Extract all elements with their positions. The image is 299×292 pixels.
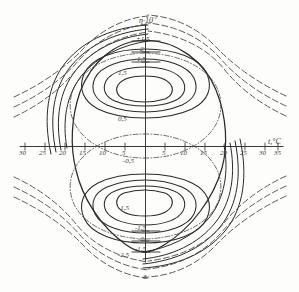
contour-label-upper-inner: 1,5 xyxy=(118,70,127,77)
branch-lower-right-solid xyxy=(143,139,244,268)
y-label-1-5: 1,5 xyxy=(137,56,146,63)
x-tick-label-pos-10: 10 xyxy=(180,150,187,157)
contour-label-lower-inner: -1,5 xyxy=(118,205,129,212)
y-axis-title: η·10-2 xyxy=(139,15,157,25)
branch-right-dashed xyxy=(148,176,286,277)
x-tick-label-neg-5: 5 xyxy=(122,150,126,157)
x-tick-label-neg-10: 10 xyxy=(99,150,106,157)
plot-canvas xyxy=(0,0,299,292)
x-tick-label-neg-25: 25 xyxy=(39,150,46,157)
x-tick-label-pos-30: 30 xyxy=(259,150,266,157)
x-tick-label-pos-5: 5 xyxy=(162,150,166,157)
branch-right-upper-dashed xyxy=(148,15,286,116)
figure-caption: a xyxy=(143,272,147,281)
y-label-neg-2-5: -2,5 xyxy=(118,252,129,259)
x-tick-label-pos-25: 25 xyxy=(240,150,247,157)
y-label-neg-1-5-lower: -1,5 xyxy=(135,246,146,253)
y-label-plus-1-5: +1,5 xyxy=(136,36,149,43)
y-axis-exponent: -2 xyxy=(153,15,157,20)
x-tick-label-neg-20: 20 xyxy=(59,150,66,157)
y-axis-factor: ·10 xyxy=(143,16,153,25)
figure-container: η·10-2 t,°C 30 25 20 15 10 5 5 10 15 20 … xyxy=(0,0,299,292)
x-axis-title: t,°C xyxy=(268,138,281,146)
contour-label-upper-axis: 0,5 xyxy=(118,116,127,123)
y-label-neg-2: -2 xyxy=(138,236,144,243)
y-label-2: 2 xyxy=(140,46,144,53)
x-tick-label-neg-15: 15 xyxy=(79,150,86,157)
x-tick-label-pos-35: 35 xyxy=(274,150,281,157)
y-label-neg-1-5-upper: -1,5 xyxy=(135,225,146,232)
branch-left-dashed xyxy=(14,16,148,117)
x-tick-label-neg-30: 30 xyxy=(19,150,26,157)
x-tick-label-pos-20: 20 xyxy=(220,150,227,157)
contour-label-lower-axis: -0,5 xyxy=(123,158,134,165)
x-tick-label-pos-15: 15 xyxy=(200,150,207,157)
